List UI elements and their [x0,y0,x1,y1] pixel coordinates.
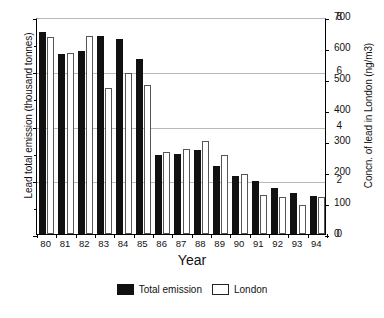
bar-total-emission [39,32,46,234]
y-axis-right-tick-label: 0 [334,228,364,239]
bar-group [37,19,56,234]
bar-london [47,37,54,234]
legend-label-london: London [234,284,267,295]
bar-london [279,197,286,234]
bar-total-emission [271,188,278,234]
bar-group [192,19,211,234]
bar-group [250,19,269,234]
legend-swatch-total-emission [117,284,134,295]
bar-total-emission [136,59,143,234]
bar-london [260,195,267,234]
bar-london [105,88,112,234]
legend-item-london: London [212,284,267,295]
bar-group [134,19,153,234]
y-axis-right-tick-label: 400 [334,104,364,115]
bar-total-emission [310,196,317,234]
legend-item-total-emission: Total emission [117,284,202,295]
bar-group [269,19,288,234]
y-axis-right-tick-label: 100 [334,197,364,208]
bar-london [86,36,93,234]
bar-group [230,19,249,234]
y-axis-right-tick-label: 700 [334,11,364,22]
bar-london [299,205,306,234]
bar-total-emission [116,39,123,234]
y-axis-left-tick-label: 4 [322,120,342,131]
plot-area [36,18,326,235]
bar-total-emission [252,181,259,234]
bar-total-emission [78,51,85,234]
legend-swatch-london [212,284,229,295]
bar-london [241,174,248,234]
bar-group [153,19,172,234]
bar-london [163,152,170,234]
bar-total-emission [290,193,297,234]
chart-legend: Total emission London [0,284,384,295]
bar-group [211,19,230,234]
bar-total-emission [58,54,65,234]
chart-figure: Lead total emission (thousand tonnes) Co… [0,0,384,318]
bar-group [172,19,191,234]
y-axis-right-tick-label: 200 [334,166,364,177]
bar-group [95,19,114,234]
y-axis-left-title: Lead total emission (thousand tonnes) [23,11,34,221]
y-axis-right-title: Concn. of lead in London (ng/m3) [363,11,374,221]
bar-total-emission [97,36,104,234]
bar-group [114,19,133,234]
bar-london [67,53,74,234]
x-axis-title: Year [0,252,384,268]
bar-london [183,149,190,234]
bar-total-emission [213,166,220,234]
bar-london [202,141,209,234]
bar-group [56,19,75,234]
legend-label-total-emission: Total emission [139,284,202,295]
bar-group [288,19,307,234]
bar-london [144,85,151,234]
bar-group [76,19,95,234]
x-axis-tick-label: 94 [305,238,327,249]
bar-total-emission [155,155,162,234]
bar-total-emission [174,154,181,234]
y-axis-right-tick-label: 300 [334,135,364,146]
bar-total-emission [194,150,201,234]
bar-london [125,73,132,234]
y-axis-right-tick-label: 600 [334,42,364,53]
bar-london [221,155,228,234]
y-axis-right-tick-label: 500 [334,73,364,84]
bar-total-emission [232,176,239,234]
